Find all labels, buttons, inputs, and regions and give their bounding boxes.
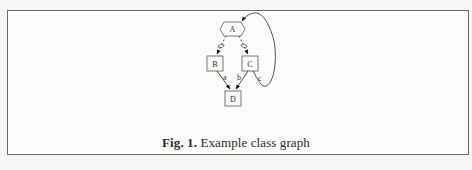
figure-caption: Fig. 1. Example class graph <box>0 135 472 151</box>
diamond-icon <box>241 43 248 48</box>
edge-label-b: b <box>237 73 241 82</box>
figure-caption-text: Example class graph <box>200 135 309 150</box>
diamond-icon <box>218 43 225 48</box>
edge-c-d: b <box>236 71 248 89</box>
edge-a-b <box>217 36 226 54</box>
edge-a-c <box>239 36 248 54</box>
node-c: C <box>242 56 258 71</box>
figure-number: Fig. 1. <box>162 135 197 150</box>
edge-c-a: c <box>242 13 275 86</box>
node-c-label: C <box>247 60 252 69</box>
node-d: D <box>225 91 241 106</box>
node-b: B <box>207 56 223 71</box>
node-d-label: D <box>230 95 236 104</box>
edge-b-d: a <box>217 71 230 89</box>
node-a: A <box>220 22 245 36</box>
edge-label-c: c <box>258 74 262 83</box>
edge-label-a: a <box>223 73 227 82</box>
node-a-label: A <box>230 25 236 34</box>
node-b-label: B <box>212 60 217 69</box>
